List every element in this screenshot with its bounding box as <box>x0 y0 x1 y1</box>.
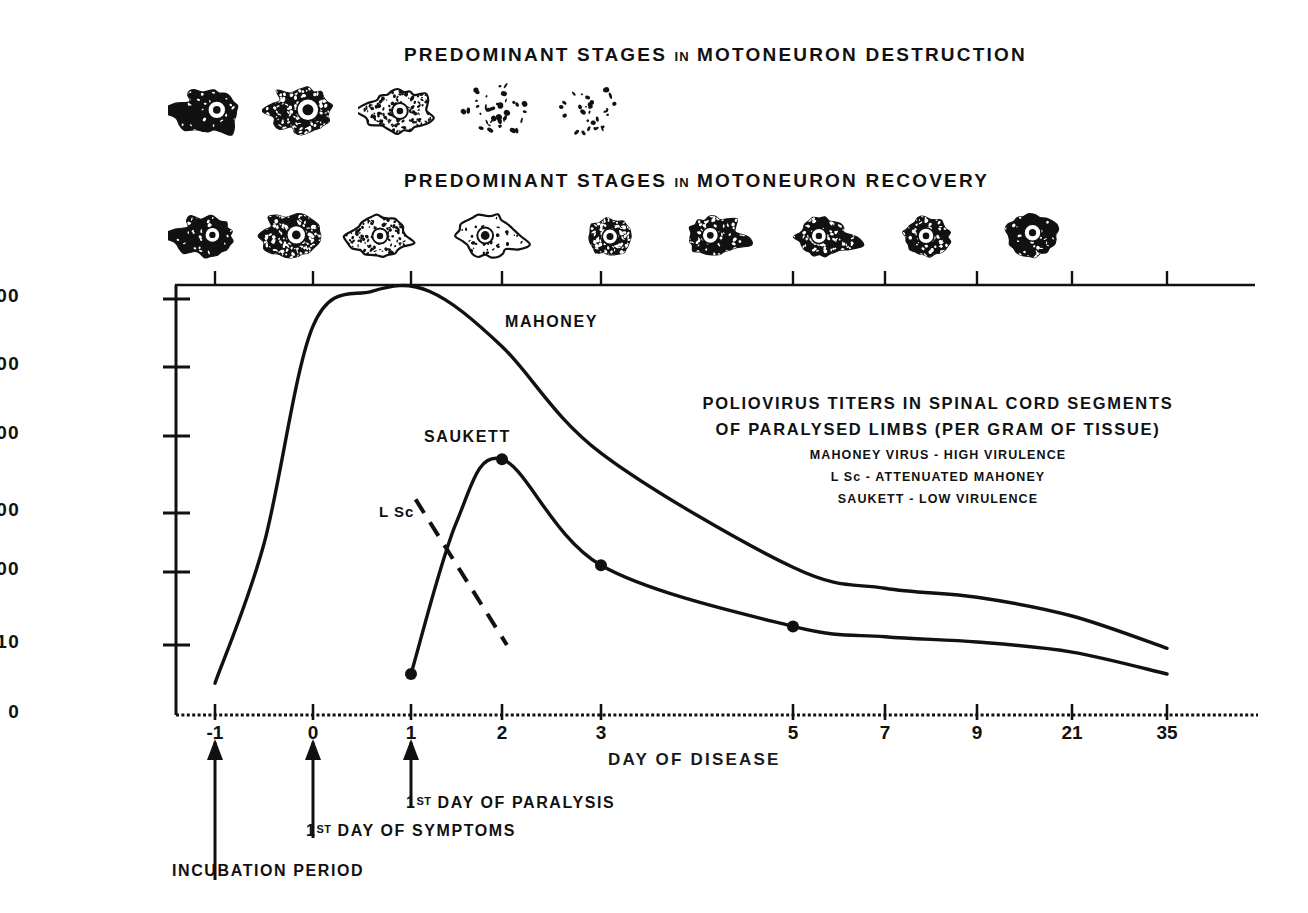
legend-line-1: POLIOVIRUS TITERS IN SPINAL CORD SEGMENT… <box>668 390 1208 416</box>
x-tick-marks <box>215 704 1167 720</box>
paralysis-text: DAY OF PARALYSIS <box>432 794 616 811</box>
saukett-label: SAUKETT <box>424 428 511 446</box>
paralysis-annotation: 1ST DAY OF PARALYSIS <box>406 794 615 812</box>
symptoms-num: 1 <box>306 822 317 839</box>
annotation-arrow-head <box>305 739 321 760</box>
data-point-marker <box>496 453 508 465</box>
data-point-marker <box>405 668 417 680</box>
annotation-arrow-head <box>403 739 419 760</box>
legend-line-2: OF PARALYSED LIMBS (PER GRAM OF TISSUE) <box>668 416 1208 442</box>
lsc-label: L Sc <box>379 503 414 520</box>
symptoms-text: DAY OF SYMPTOMS <box>332 822 516 839</box>
paralysis-sup: ST <box>417 795 432 807</box>
annotation-arrows <box>207 739 419 880</box>
lsc-curve <box>416 499 507 645</box>
mahoney-label: MAHONEY <box>505 313 598 331</box>
incubation-annotation: INCUBATION PERIOD <box>172 862 364 880</box>
paralysis-num: 1 <box>406 794 417 811</box>
annotation-arrow-head <box>207 739 223 760</box>
poliovirus-titer-figure: PREDOMINANT STAGES IN MOTONEURON DESTRUC… <box>0 0 1308 913</box>
symptoms-annotation: 1ST DAY OF SYMPTOMS <box>306 822 516 840</box>
top-ruler-axis <box>175 271 1255 285</box>
legend-sub-lsc: L Sc - ATTENUATED MAHONEY <box>668 469 1208 486</box>
data-point-marker <box>787 620 799 632</box>
data-point-marker <box>595 559 607 571</box>
legend-sub-saukett: SAUKETT - LOW VIRULENCE <box>668 491 1208 508</box>
x-axis-title: DAY OF DISEASE <box>608 750 781 770</box>
legend-title-block: POLIOVIRUS TITERS IN SPINAL CORD SEGMENT… <box>668 390 1208 508</box>
legend-sub-mahoney: MAHONEY VIRUS - HIGH VIRULENCE <box>668 447 1208 464</box>
symptoms-sup: ST <box>317 823 332 835</box>
